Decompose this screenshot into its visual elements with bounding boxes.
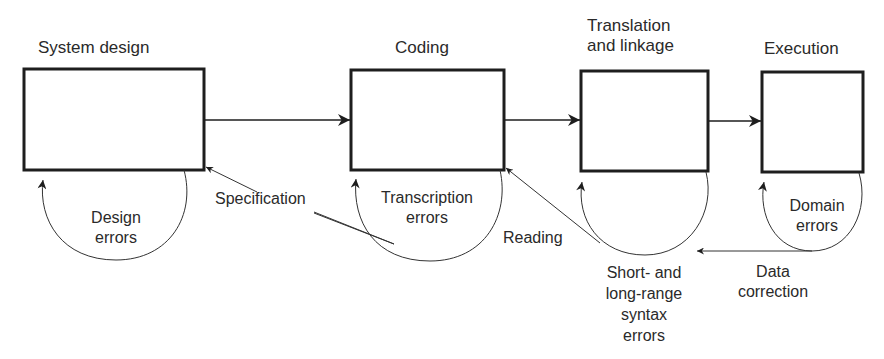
loop-label-domain-errors-1: Domain (772, 196, 862, 216)
edge-label-specification: Specification (215, 189, 306, 209)
stage-box-coding (351, 70, 504, 170)
loop-label-transcription-errors-2: errors (362, 208, 492, 228)
loop-label-transcription-errors-1: Transcription (362, 188, 492, 208)
loop-label-domain-errors-2: errors (772, 216, 862, 236)
stage-box-translation (581, 71, 708, 171)
loop-label-design-errors-2: errors (80, 228, 152, 248)
stage-title-translation-line1: Translation (587, 16, 670, 36)
stage-box-execution (762, 72, 863, 172)
edge-label-data-correction-2: correction (718, 282, 828, 302)
stage-title-system-design: System design (38, 38, 150, 58)
edge-label-reading: Reading (503, 228, 563, 248)
stage-title-coding: Coding (395, 38, 449, 58)
stage-title-translation-line2: and linkage (587, 36, 674, 56)
loop-label-syntax-errors-3: syntax (590, 305, 698, 325)
loop-label-syntax-errors-1: Short- and (590, 263, 698, 283)
loop-label-syntax-errors-2: long-range (590, 284, 698, 304)
stage-box-system-design (24, 69, 204, 170)
edge-label-data-correction-1: Data (718, 262, 828, 282)
loop-label-design-errors-1: Design (80, 208, 152, 228)
stage-title-execution: Execution (764, 39, 839, 59)
loop-label-syntax-errors-4: errors (590, 326, 698, 346)
